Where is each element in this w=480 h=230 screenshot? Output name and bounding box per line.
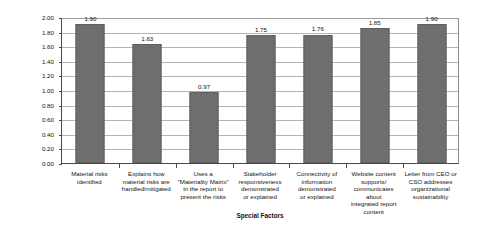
y-tick-label: 1.00 [26, 88, 54, 94]
x-category-label: Uses a "Materiality Matrix" in the repor… [175, 170, 232, 200]
bar-value-label: 0.97 [198, 84, 210, 90]
x-tick-mark [233, 164, 234, 168]
x-tick-mark [176, 164, 177, 168]
bar[interactable] [417, 24, 446, 163]
y-tick-label: 2.00 [26, 15, 54, 21]
bar[interactable] [133, 44, 162, 163]
x-category-label: Connectivity of information demonstrated… [288, 170, 345, 200]
bar-chart: Average Score Range: 0–3.0 0.000.200.400… [0, 0, 480, 230]
bar[interactable] [303, 35, 332, 163]
bar[interactable] [360, 28, 389, 163]
x-category-label: Website content supports/ communicates a… [345, 170, 402, 216]
plot-area: 0.000.200.400.600.801.001.201.401.601.80… [61, 18, 459, 164]
bar-value-label: 1.63 [141, 36, 153, 42]
bar-slot: 0.97 [176, 18, 233, 163]
x-axis-title: Special Factors [61, 212, 459, 219]
x-tick-mark [289, 164, 290, 168]
x-category-label: Material risks identified [61, 170, 118, 185]
bar-slot: 1.75 [233, 18, 290, 163]
x-category-label: Letter from CEO or CSO addresses organiz… [402, 170, 459, 200]
bars-layer: 1.901.630.971.751.761.851.90 [62, 18, 458, 163]
bar-slot: 1.85 [346, 18, 403, 163]
y-tick-mark [59, 164, 62, 165]
y-tick-label: 1.20 [26, 73, 54, 79]
y-tick-label: 0.60 [26, 117, 54, 123]
bar[interactable] [246, 35, 275, 163]
bar-slot: 1.63 [119, 18, 176, 163]
bar-slot: 1.90 [403, 18, 460, 163]
x-category-label: Explains how material risks are handled/… [118, 170, 175, 193]
x-axis-category-labels: Material risks identifiedExplains how ma… [61, 170, 459, 212]
bar-value-label: 1.90 [84, 16, 96, 22]
y-tick-label: 1.80 [26, 30, 54, 36]
bar[interactable] [76, 24, 105, 163]
y-tick-label: 0.80 [26, 103, 54, 109]
bar-value-label: 1.85 [369, 20, 381, 26]
bar-value-label: 1.75 [255, 27, 267, 33]
y-tick-label: 0.20 [26, 146, 54, 152]
bar-value-label: 1.76 [312, 26, 324, 32]
y-tick-label: 0.40 [26, 132, 54, 138]
bar[interactable] [190, 92, 219, 163]
x-tick-mark [403, 164, 404, 168]
x-tick-mark [119, 164, 120, 168]
bar-slot: 1.90 [62, 18, 119, 163]
bar-value-label: 1.90 [426, 16, 438, 22]
y-tick-label: 1.40 [26, 59, 54, 65]
x-tick-mark [346, 164, 347, 168]
bar-slot: 1.76 [289, 18, 346, 163]
y-tick-label: 1.60 [26, 44, 54, 50]
y-tick-label: 0.00 [26, 161, 54, 167]
x-category-label: Stakeholder responsiveness demonstrated … [232, 170, 289, 200]
